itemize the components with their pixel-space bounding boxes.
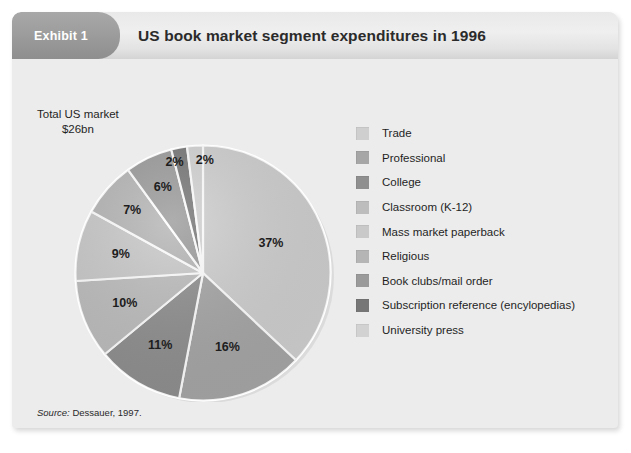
legend-item[interactable]: Classroom (K-12)	[356, 195, 606, 220]
legend-swatch	[356, 299, 369, 312]
source-note: Source: Dessauer, 1997.	[37, 407, 142, 418]
legend-label: University press	[382, 324, 464, 336]
legend-label: College	[382, 176, 421, 188]
page-title: US book market segment expenditures in 1…	[138, 12, 486, 59]
legend-label: Trade	[382, 127, 412, 139]
pie-slice-group	[75, 146, 330, 401]
legend-label: Religious	[382, 250, 429, 262]
legend-label: Classroom (K-12)	[382, 201, 472, 213]
legend-label: Professional	[382, 152, 445, 164]
legend-item[interactable]: College	[356, 170, 606, 195]
legend-swatch	[356, 176, 369, 189]
legend-item[interactable]: Religious	[356, 244, 606, 269]
legend-swatch	[356, 151, 369, 164]
source-text: Dessauer, 1997.	[70, 407, 142, 418]
pie-slice-value-label: 37%	[258, 236, 283, 250]
legend-label: Mass market paperback	[382, 226, 505, 238]
exhibit-panel: Exhibit 1 US book market segment expendi…	[12, 12, 618, 428]
pie-slice-value-label: 9%	[112, 247, 130, 261]
legend-swatch	[356, 324, 369, 337]
exhibit-badge: Exhibit 1	[12, 12, 120, 59]
pie-slice-value-label: 10%	[112, 296, 137, 310]
legend-swatch	[356, 225, 369, 238]
legend-swatch	[356, 201, 369, 214]
pie-chart: 37%16%11%10%9%7%6%2%2%	[66, 134, 334, 402]
pie-slice-value-label: 2%	[165, 155, 183, 169]
legend-item[interactable]: Book clubs/mail order	[356, 269, 606, 294]
pie-slice-value-label: 6%	[154, 180, 172, 194]
pie-slice-value-label: 16%	[215, 340, 240, 354]
legend-swatch	[356, 274, 369, 287]
legend-item[interactable]: Mass market paperback	[356, 219, 606, 244]
legend-item[interactable]: Subscription reference (encylopedias)	[356, 293, 606, 318]
total-market-line1: Total US market	[37, 108, 119, 120]
chart-body: Total US market $26bn 37%16%11%10%9%7%6%…	[12, 59, 618, 428]
legend-swatch	[356, 250, 369, 263]
legend-label: Subscription reference (encylopedias)	[382, 299, 575, 311]
pie-slice-value-label: 7%	[123, 203, 141, 217]
total-market-annotation: Total US market $26bn	[37, 107, 119, 136]
source-prefix: Source:	[37, 407, 70, 418]
exhibit-header: Exhibit 1 US book market segment expendi…	[12, 12, 618, 59]
legend-item[interactable]: University press	[356, 318, 606, 343]
legend-swatch	[356, 127, 369, 140]
legend-label: Book clubs/mail order	[382, 275, 493, 287]
legend-item[interactable]: Professional	[356, 146, 606, 171]
pie-chart-svg: 37%16%11%10%9%7%6%2%2%	[66, 134, 334, 402]
pie-slice-value-label: 2%	[196, 153, 214, 167]
legend-item[interactable]: Trade	[356, 121, 606, 146]
pie-slice-value-label: 11%	[148, 338, 172, 352]
chart-legend: TradeProfessionalCollegeClassroom (K-12)…	[356, 121, 606, 342]
